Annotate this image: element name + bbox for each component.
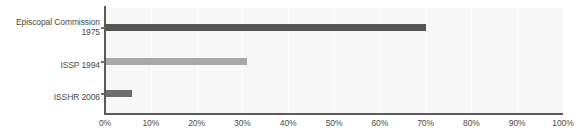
bar-isshr-2006	[105, 90, 132, 97]
y-axis-label-issp-1994: ISSP 1994	[0, 60, 100, 70]
x-axis-tick-label-50%: 50%	[314, 118, 354, 129]
x-axis-line	[104, 113, 563, 115]
plot-area	[105, 8, 563, 113]
y-axis-tick-1	[101, 61, 105, 63]
bar-issp-1994	[105, 58, 247, 65]
gridline-70%	[426, 8, 427, 113]
x-axis-tick-label-30%: 30%	[222, 118, 262, 129]
x-axis-tick-label-20%: 20%	[177, 118, 217, 129]
x-axis-tick-label-80%: 80%	[451, 118, 491, 129]
bar-episcopal-commission-1975	[105, 24, 426, 31]
y-axis-label-episcopal-commission-1975: Episcopal Commission 1975	[0, 17, 100, 37]
x-axis-tick-label-90%: 90%	[497, 118, 537, 129]
y-axis-label-isshr-2006: ISSHR 2006	[0, 92, 100, 102]
x-axis-tick-label-0%: 0%	[85, 118, 125, 129]
x-axis-tick-label-70%: 70%	[406, 118, 446, 129]
x-axis-tick-label-100%: 100%	[543, 118, 580, 129]
x-axis-tick-label-10%: 10%	[131, 118, 171, 129]
y-axis-tick-0	[101, 27, 105, 29]
y-axis-category-labels: Episcopal Commission 1975 ISSP 1994 ISSH…	[0, 8, 100, 113]
y-axis-line	[104, 6, 106, 114]
y-axis-tick-2	[101, 93, 105, 95]
gridline-90%	[517, 8, 518, 113]
bar-chart: Episcopal Commission 1975 ISSP 1994 ISSH…	[0, 0, 580, 138]
x-axis-tick-label-40%: 40%	[268, 118, 308, 129]
gridline-100%	[563, 8, 564, 113]
x-axis-tick-label-60%: 60%	[360, 118, 400, 129]
gridline-80%	[471, 8, 472, 113]
